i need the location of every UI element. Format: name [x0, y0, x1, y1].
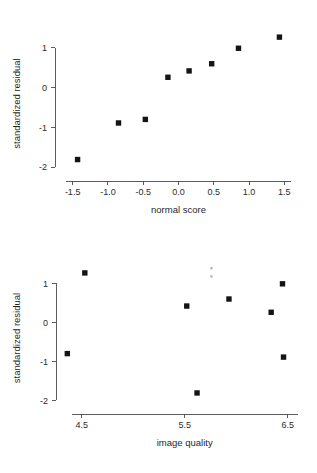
y-axis-title: standardized residual [11, 293, 22, 383]
data-point [143, 117, 148, 122]
y-tick-label: -2 [40, 396, 48, 406]
data-point [82, 270, 87, 275]
y-axis-title: standardized residual [11, 58, 22, 148]
data-point [65, 351, 70, 356]
x-tick-label: -1.0 [100, 187, 116, 197]
x-tick-label: 0.0 [172, 187, 185, 197]
y-tick-label: -1 [39, 123, 47, 133]
x-axis-title: normal score [151, 204, 206, 215]
x-tick-label: 1.5 [278, 187, 291, 197]
y-tick-label: 0 [43, 318, 48, 328]
data-point [194, 390, 199, 395]
data-point [236, 46, 241, 51]
x-tick-label: 0.5 [208, 187, 221, 197]
y-tick-label: 1 [42, 43, 47, 53]
data-point [277, 34, 282, 39]
data-point [268, 310, 273, 315]
data-point [281, 354, 286, 359]
y-tick-label: -2 [39, 162, 47, 172]
faint-smudge [210, 275, 212, 277]
normal-probability-plot-canvas: -1.5-1.0-0.50.00.51.01.510-1-2normal sco… [0, 0, 317, 236]
y-tick-label: -1 [40, 357, 48, 367]
x-tick-label: -0.5 [135, 187, 151, 197]
x-tick-label: 1.0 [243, 187, 256, 197]
x-tick-label: 5.5 [178, 420, 191, 430]
residual-vs-image-quality-plot: 4.55.56.510-1-2image qualitystandardized… [0, 236, 317, 473]
x-axis-title: image quality [157, 437, 213, 448]
x-tick-label: 6.5 [281, 420, 294, 430]
data-point [226, 296, 231, 301]
data-point [280, 281, 285, 286]
y-tick-label: 1 [43, 279, 48, 289]
data-point [165, 75, 170, 80]
residual-vs-image-quality-plot-canvas: 4.55.56.510-1-2image qualitystandardized… [0, 236, 317, 473]
data-point [184, 303, 189, 308]
faint-smudge [210, 267, 212, 269]
data-point [75, 157, 80, 162]
x-tick-label: 4.5 [75, 420, 88, 430]
data-point [116, 120, 121, 125]
data-point [186, 68, 191, 73]
data-point [209, 61, 214, 66]
x-tick-label: -1.5 [65, 187, 81, 197]
y-tick-label: 0 [42, 83, 47, 93]
normal-probability-plot: -1.5-1.0-0.50.00.51.01.510-1-2normal sco… [0, 0, 317, 236]
